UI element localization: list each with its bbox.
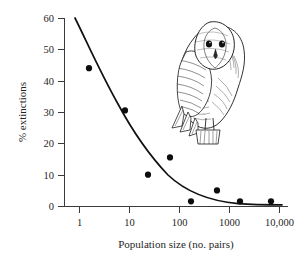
y-tick-label: 20	[44, 138, 55, 149]
x-tick-label: 10,000	[265, 217, 294, 228]
data-point	[145, 172, 151, 178]
data-point	[214, 187, 220, 193]
x-tick-label: 100	[172, 217, 188, 228]
y-tick-label: 60	[44, 13, 55, 24]
y-tick-label: 50	[44, 44, 55, 55]
data-point	[86, 65, 92, 71]
y-tick-label: 40	[44, 76, 55, 87]
data-point	[122, 107, 128, 113]
y-tick-label: 10	[44, 170, 55, 181]
y-axis-title: % extinctions	[16, 82, 28, 142]
y-tick-label: 0	[49, 201, 54, 212]
barn-owl-illustration	[172, 22, 245, 144]
x-tick-label: 1	[77, 217, 82, 228]
y-axis-ticks	[58, 19, 65, 207]
y-axis-tick-labels: 0 10 20 30 40 50 60	[44, 13, 55, 212]
extinction-scatter-plot: 0 10 20 30 40 50 60 1 10 100 1000 10,000	[0, 0, 306, 263]
data-point	[268, 198, 274, 204]
y-tick-label: 30	[44, 107, 55, 118]
x-axis-title: Population size (no. pairs)	[118, 238, 234, 251]
data-point	[167, 154, 173, 160]
x-axis-ticks	[80, 207, 280, 214]
x-axis-tick-labels: 1 10 100 1000 10,000	[77, 217, 294, 228]
x-tick-label: 10	[124, 217, 135, 228]
data-point	[188, 198, 194, 204]
data-point	[237, 198, 243, 204]
x-tick-label: 1000	[219, 217, 240, 228]
chart-figure: 0 10 20 30 40 50 60 1 10 100 1000 10,000	[0, 0, 306, 263]
fitted-decay-curve	[75, 18, 282, 205]
